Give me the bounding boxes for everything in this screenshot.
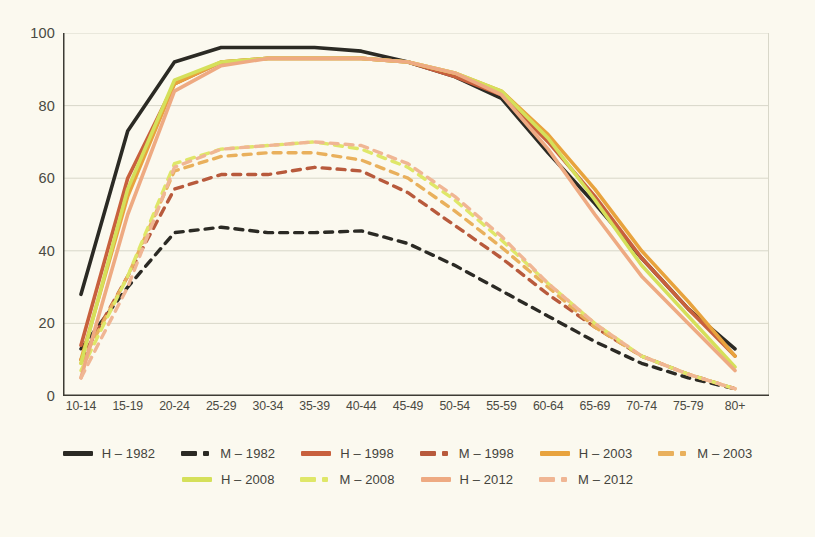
legend-item-m-1982[interactable]: M – 1982 [181,446,275,461]
series-line-h-1998 [81,58,735,356]
legend-label: H – 1998 [340,446,394,461]
series-line-m-1998 [81,167,735,388]
legend-label: M – 1982 [220,446,275,461]
legend-label: H – 2003 [579,446,633,461]
legend-item-m-2008[interactable]: M – 2008 [300,472,394,487]
legend-swatch-icon [63,448,93,459]
legend-item-h-2003[interactable]: H – 2003 [540,446,633,461]
legend-item-h-2008[interactable]: H – 2008 [182,472,275,487]
x-tick-label: 40-44 [346,399,376,413]
legend-swatch-icon [181,448,211,459]
legend-swatch-icon [420,448,450,459]
x-tick-label: 70-74 [626,399,656,413]
series-line-h-2012 [81,58,735,377]
legend-swatch-icon [301,448,331,459]
x-tick-label: 25-29 [206,399,236,413]
legend-swatch-icon [182,474,212,485]
legend-item-h-1998[interactable]: H – 1998 [301,446,394,461]
legend-swatch-icon [658,448,688,459]
x-tick-label: 15-19 [112,399,142,413]
y-tick-label: 0 [47,388,55,404]
y-tick-label: 80 [38,98,55,114]
plot-area [63,33,769,396]
y-tick-label: 20 [38,315,55,331]
x-tick-label: 55-59 [486,399,516,413]
legend-swatch-icon [539,474,569,485]
x-tick-label: 20-24 [159,399,189,413]
legend-swatch-icon [540,448,570,459]
y-tick-label: 100 [30,25,55,41]
legend-label: M – 1998 [459,446,514,461]
legend-item-m-1998[interactable]: M – 1998 [420,446,514,461]
x-tick-label: 30-34 [253,399,283,413]
x-tick-label: 50-54 [439,399,469,413]
x-tick-label: 10-14 [66,399,96,413]
y-tick-label: 60 [38,170,55,186]
series-line-h-2003 [81,58,735,359]
legend-label: H – 2012 [460,472,514,487]
x-tick-label: 80+ [725,399,745,413]
series-line-h-2008 [81,58,735,367]
legend-label: M – 2003 [697,446,752,461]
x-tick-label: 35-39 [299,399,329,413]
legend-item-m-2003[interactable]: M – 2003 [658,446,752,461]
chart-figure: 100806040200 10-1415-1920-2425-2930-3435… [0,0,815,537]
y-axis-labels: 100806040200 [0,33,55,396]
x-tick-label: 75-79 [673,399,703,413]
legend-label: H – 1982 [102,446,156,461]
x-tick-label: 65-69 [580,399,610,413]
x-tick-label: 60-64 [533,399,563,413]
legend-label: M – 2008 [339,472,394,487]
line-chart-svg [63,33,769,396]
legend-label: H – 2008 [221,472,275,487]
legend-swatch-icon [300,474,330,485]
x-axis-labels: 10-1415-1920-2425-2930-3435-3940-4445-49… [63,398,769,420]
chart-legend: H – 1982M – 1982H – 1998M – 1998H – 2003… [0,440,815,492]
x-tick-label: 45-49 [393,399,423,413]
legend-item-m-2012[interactable]: M – 2012 [539,472,633,487]
series-line-h-1982 [81,48,735,349]
legend-swatch-icon [421,474,451,485]
legend-row: H – 2008M – 2008H – 2012M – 2012 [0,466,815,492]
legend-item-h-1982[interactable]: H – 1982 [63,446,156,461]
legend-row: H – 1982M – 1982H – 1998M – 1998H – 2003… [0,440,815,466]
y-tick-label: 40 [38,243,55,259]
legend-item-h-2012[interactable]: H – 2012 [421,472,514,487]
legend-label: M – 2012 [578,472,633,487]
